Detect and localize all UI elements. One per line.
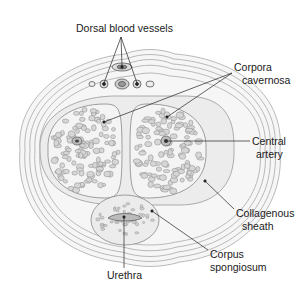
cavernous-space — [156, 167, 161, 171]
cavernous-space — [58, 176, 64, 181]
cavernous-space — [148, 182, 154, 188]
cavernous-space — [100, 216, 104, 219]
cavernous-space — [80, 144, 85, 148]
cavernous-space — [72, 161, 76, 166]
label-corpus-spongiosum-line2: spongiosum — [210, 261, 267, 273]
cavernous-space — [104, 171, 111, 177]
cavernous-space — [159, 175, 166, 181]
cavernous-space — [176, 112, 184, 118]
cavernous-space — [180, 178, 184, 182]
cavernous-space — [139, 151, 147, 155]
cavernous-space — [142, 128, 149, 134]
cavernous-space — [96, 167, 103, 171]
label-central-artery-line2: artery — [256, 148, 283, 160]
cavernous-space — [96, 218, 100, 221]
cavernous-space — [91, 125, 96, 131]
cavernous-space — [111, 135, 116, 139]
cavernous-space — [100, 114, 105, 120]
cavernous-space — [85, 129, 90, 133]
cavernous-space — [105, 160, 111, 163]
cavernous-space — [117, 207, 120, 209]
cavernous-space — [183, 123, 187, 128]
cavernous-space — [126, 203, 130, 205]
cavernous-space — [77, 168, 84, 171]
cavernous-space — [159, 131, 165, 136]
cavernous-space — [109, 140, 114, 146]
cavernous-space — [151, 174, 157, 178]
cavernous-space — [179, 154, 186, 160]
cavernous-space — [63, 180, 67, 183]
cavernous-space — [135, 232, 139, 234]
cavernous-space — [145, 142, 152, 147]
cavernous-space — [156, 111, 161, 114]
cavernous-space — [148, 155, 153, 161]
cavernous-space — [142, 119, 149, 122]
cavernous-space — [163, 185, 171, 190]
cavernous-space — [142, 214, 145, 218]
cavernous-space — [116, 221, 119, 223]
cavernous-space — [140, 205, 143, 208]
cavernous-space — [82, 107, 87, 112]
cavernous-space — [119, 229, 122, 231]
cavernous-space — [171, 117, 177, 121]
cavernous-space — [161, 119, 167, 125]
cavernous-space — [145, 214, 149, 217]
corpus-spongiosum — [91, 195, 159, 245]
cavernous-space — [185, 136, 190, 140]
cavernous-space — [123, 210, 125, 213]
cavernous-space — [89, 116, 95, 121]
cavernous-space — [51, 157, 58, 163]
cavernous-space — [99, 213, 101, 216]
cavernous-space — [68, 131, 75, 137]
cavernous-space — [75, 149, 81, 153]
cavernous-space — [62, 155, 68, 159]
cavernous-space — [101, 228, 105, 231]
cavernous-space — [193, 132, 197, 135]
label-collagenous-sheath-line2: sheath — [242, 220, 274, 232]
label-corpora-cavernosa-line2: cavernosa — [242, 74, 290, 86]
cavernous-space — [93, 138, 100, 144]
cavernous-space — [56, 132, 62, 138]
cavernous-space — [110, 221, 113, 223]
cavernous-space — [92, 180, 98, 183]
cavernous-space — [151, 219, 155, 221]
cavernous-space — [109, 165, 116, 168]
cavernous-space — [79, 153, 83, 159]
cavernous-space — [60, 163, 65, 169]
cavernous-space — [96, 119, 100, 123]
cavernous-space — [114, 208, 116, 211]
cavernous-space — [186, 128, 193, 132]
cavernous-space — [90, 109, 96, 113]
cavernous-space — [86, 178, 92, 182]
cavernous-space — [98, 183, 103, 188]
cavernous-space — [139, 213, 143, 216]
cavernous-space — [123, 232, 126, 235]
label-corpus-spongiosum-line1: Corpus — [210, 248, 244, 260]
cavernous-space — [112, 152, 117, 157]
cavernous-space — [175, 123, 183, 128]
cavernous-space — [137, 135, 144, 138]
cavernous-space — [154, 184, 161, 188]
cavernous-space — [96, 157, 100, 163]
cavernous-space — [181, 144, 186, 147]
cavernous-space — [133, 159, 140, 164]
cavernous-space — [93, 162, 98, 168]
cavernous-space — [173, 171, 179, 176]
cavernous-space — [141, 173, 148, 178]
cavernous-space — [189, 166, 195, 171]
cavernous-space — [73, 126, 78, 130]
cavernous-space — [112, 128, 116, 132]
cavernous-space — [132, 221, 136, 224]
cavernous-space — [159, 152, 164, 158]
cavernous-space — [131, 209, 135, 211]
cavernous-space — [196, 167, 200, 172]
cavernous-space — [72, 171, 78, 175]
cavernous-space — [142, 221, 144, 223]
cavernous-space — [99, 148, 104, 153]
cavernous-space — [138, 144, 142, 147]
cavernous-space — [143, 163, 148, 167]
cavernous-space — [195, 139, 202, 142]
cavernous-space — [104, 225, 108, 227]
cavernous-space — [123, 205, 127, 207]
cavernous-space — [150, 161, 156, 166]
